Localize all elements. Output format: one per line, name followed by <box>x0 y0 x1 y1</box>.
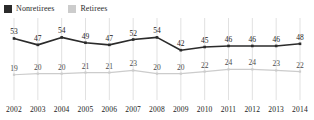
data-point-marker <box>37 44 40 47</box>
x-axis: 2002200320042005200620072008200920102011… <box>0 105 314 119</box>
data-label: 46 <box>272 36 280 44</box>
data-label: 20 <box>58 64 66 72</box>
data-label: 52 <box>129 30 137 38</box>
data-point-marker <box>84 72 86 74</box>
data-label: 20 <box>177 64 185 72</box>
x-axis-tick-label: 2013 <box>268 105 284 114</box>
data-label: 20 <box>34 64 42 72</box>
data-label: 24 <box>249 59 257 67</box>
data-point-marker <box>132 69 134 71</box>
data-point-marker <box>275 69 277 71</box>
data-point-marker <box>108 44 111 47</box>
legend-swatch-icon <box>68 5 76 13</box>
data-label: 22 <box>296 62 304 70</box>
data-point-marker <box>251 68 253 70</box>
data-point-marker <box>275 45 278 48</box>
data-label: 22 <box>201 62 209 70</box>
x-axis-tick-label: 2009 <box>173 105 189 114</box>
data-point-marker <box>13 37 16 40</box>
x-axis-tick-label: 2007 <box>125 105 141 114</box>
data-label: 46 <box>225 36 233 44</box>
data-point-marker <box>204 70 206 72</box>
data-label: 23 <box>129 60 137 68</box>
legend-item-nonretirees[interactable]: Nonretirees <box>4 5 54 13</box>
data-point-marker <box>227 68 229 70</box>
data-point-marker <box>108 72 110 74</box>
data-label: 23 <box>272 60 280 68</box>
data-label: 48 <box>296 34 304 42</box>
x-axis-tick-label: 2011 <box>221 105 237 114</box>
data-point-marker <box>13 74 15 76</box>
data-label: 45 <box>201 37 209 45</box>
data-point-marker <box>132 38 135 41</box>
legend-swatch-icon <box>4 5 12 13</box>
legend-label-nonretirees: Nonretirees <box>16 5 54 13</box>
data-label: 21 <box>106 63 114 71</box>
x-axis-tick-label: 2003 <box>30 105 46 114</box>
data-point-marker <box>180 73 182 75</box>
data-point-marker <box>227 45 230 48</box>
x-axis-tick-label: 2006 <box>101 105 117 114</box>
data-label: 49 <box>82 33 90 41</box>
data-label: 47 <box>34 35 42 43</box>
data-label: 54 <box>153 27 161 35</box>
data-point-marker <box>251 45 254 48</box>
x-axis-tick-label: 2002 <box>6 105 22 114</box>
x-axis-tick-label: 2014 <box>292 105 308 114</box>
data-point-marker <box>37 73 39 75</box>
data-point-marker <box>180 49 183 52</box>
data-point-marker <box>299 70 301 72</box>
data-label: 21 <box>82 63 90 71</box>
data-point-marker <box>156 73 158 75</box>
data-label: 42 <box>177 40 185 48</box>
legend-label-retirees: Retirees <box>80 5 107 13</box>
x-axis-tick-label: 2005 <box>78 105 94 114</box>
data-label: 24 <box>225 59 233 67</box>
x-axis-tick-label: 2012 <box>244 105 260 114</box>
data-point-marker <box>84 41 87 44</box>
data-point-marker <box>203 46 206 49</box>
legend-item-retirees[interactable]: Retirees <box>68 5 107 13</box>
data-label: 46 <box>249 36 257 44</box>
line-chart: Nonretirees Retirees 5347544947525442454… <box>0 0 314 120</box>
data-label: 54 <box>58 27 66 35</box>
x-axis-tick-label: 2008 <box>149 105 165 114</box>
data-point-marker <box>60 36 63 39</box>
data-point-marker <box>61 73 63 75</box>
data-label: 20 <box>153 64 161 72</box>
data-point-marker <box>156 36 159 39</box>
data-point-marker <box>299 43 302 46</box>
data-label: 53 <box>10 28 18 36</box>
chart-legend: Nonretirees Retirees <box>4 2 107 15</box>
x-axis-tick-label: 2010 <box>197 105 213 114</box>
x-axis-tick-label: 2004 <box>54 105 70 114</box>
data-label: 19 <box>10 65 18 73</box>
data-label: 47 <box>106 35 114 43</box>
